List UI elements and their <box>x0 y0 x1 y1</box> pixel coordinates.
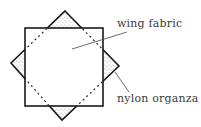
wing-fabric-leader-line <box>72 32 127 49</box>
wing-fabric-square <box>25 28 103 106</box>
nylon-organza-label: nylon organza <box>117 92 199 105</box>
wing-fabric-label: wing fabric <box>117 17 182 30</box>
wing-fabric-diagram: wing fabric nylon organza <box>0 0 201 127</box>
nylon-organza-leader-line <box>115 72 129 92</box>
